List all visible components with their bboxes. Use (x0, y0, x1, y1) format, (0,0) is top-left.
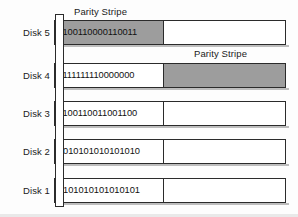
disk-4-parity-segment (163, 63, 286, 88)
disk-1-parity-segment (163, 178, 286, 203)
disk-label-1: Disk 1 (4, 185, 50, 196)
scan-edge-bottom (0, 214, 298, 217)
disk-row-4: 1111111110000000 (54, 63, 286, 88)
disk-label-3: Disk 3 (4, 108, 50, 119)
disk-3-bits: 1100110011001100 (55, 109, 137, 118)
disk-3-parity-segment (163, 101, 286, 126)
raid-parity-stripe-diagram: Parity Stripe Parity Stripe Disk 5 11001… (0, 0, 298, 217)
parity-stripe-caption-top: Parity Stripe (74, 6, 127, 17)
disk-5-data-segment: 1100110000110011 (54, 20, 164, 45)
parity-stripe-caption-second: Parity Stripe (194, 48, 247, 59)
disk-5-parity-segment (163, 20, 286, 45)
disk-1-data-segment: 0101010101010101 (54, 178, 164, 203)
vertical-stripe-marker (55, 14, 64, 207)
disk-2-parity-segment (163, 139, 286, 164)
disk-row-2: 1010101010101010 (54, 139, 286, 164)
disk-5-bits: 1100110000110011 (55, 28, 137, 37)
disk-label-2: Disk 2 (4, 146, 50, 157)
disk-label-5: Disk 5 (4, 27, 50, 38)
disk-4-data-segment: 1111111110000000 (54, 63, 164, 88)
disk-row-5: 1100110000110011 (54, 20, 286, 45)
disk-3-data-segment: 1100110011001100 (54, 101, 164, 126)
disk-1-bits: 0101010101010101 (55, 186, 140, 195)
disk-row-3: 1100110011001100 (54, 101, 286, 126)
disk-row-1: 0101010101010101 (54, 178, 286, 203)
disk-2-data-segment: 1010101010101010 (54, 139, 164, 164)
disk-label-4: Disk 4 (4, 70, 50, 81)
disk-4-bits: 1111111110000000 (55, 71, 134, 80)
disk-2-bits: 1010101010101010 (55, 147, 140, 156)
